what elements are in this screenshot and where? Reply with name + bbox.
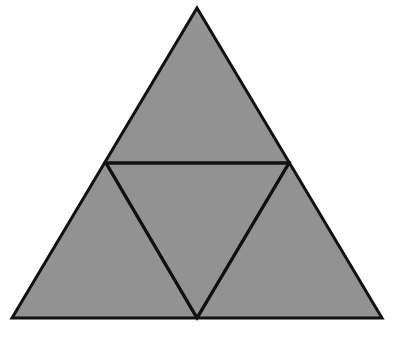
figure-canvas xyxy=(0,0,403,343)
triangle-diagram xyxy=(0,0,403,343)
